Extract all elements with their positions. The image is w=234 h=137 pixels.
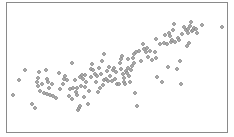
data-point <box>70 97 74 101</box>
data-point <box>40 82 44 86</box>
data-point <box>150 58 154 62</box>
data-point <box>50 82 54 86</box>
scatter-plot <box>0 0 234 137</box>
data-point <box>100 59 104 63</box>
data-point <box>67 94 71 98</box>
data-point <box>128 80 132 84</box>
data-point <box>98 86 102 90</box>
data-point <box>57 71 61 75</box>
data-point <box>122 76 126 80</box>
data-point <box>131 56 135 60</box>
data-point <box>178 59 182 63</box>
data-point <box>163 33 167 37</box>
data-point <box>83 73 87 77</box>
data-point <box>189 20 193 24</box>
data-point <box>154 37 158 41</box>
data-point <box>102 52 106 56</box>
data-point <box>155 75 159 79</box>
data-point <box>101 83 105 87</box>
data-point <box>38 89 42 93</box>
data-point <box>160 80 164 84</box>
data-point <box>200 23 204 27</box>
data-point <box>58 87 62 91</box>
data-point <box>11 93 15 97</box>
data-point <box>96 90 100 94</box>
data-point <box>166 65 170 69</box>
data-point <box>179 82 183 86</box>
data-point <box>133 91 137 95</box>
data-point <box>37 70 41 74</box>
data-point <box>139 59 143 63</box>
data-point <box>23 68 27 72</box>
data-point <box>141 42 145 46</box>
data-point <box>180 32 184 36</box>
data-point <box>153 50 157 54</box>
data-point <box>84 80 88 84</box>
data-point <box>36 84 40 88</box>
data-point <box>90 62 94 66</box>
data-point <box>148 49 152 53</box>
data-point <box>82 95 86 99</box>
data-point <box>126 57 130 61</box>
data-point <box>175 67 179 71</box>
data-point <box>83 85 87 89</box>
data-point <box>61 82 65 86</box>
data-point <box>73 78 77 82</box>
data-point <box>107 65 111 69</box>
data-point <box>79 84 83 88</box>
data-point <box>70 61 74 65</box>
data-point <box>121 72 125 76</box>
data-point <box>17 78 21 82</box>
data-point <box>30 102 34 106</box>
data-point <box>86 102 90 106</box>
data-point <box>87 89 91 93</box>
data-point <box>118 61 122 65</box>
data-point <box>154 56 158 60</box>
data-point <box>108 74 112 78</box>
data-point <box>158 42 162 46</box>
data-point <box>99 72 103 76</box>
data-point <box>171 28 175 32</box>
data-point <box>75 86 79 90</box>
data-point <box>195 31 199 35</box>
data-point <box>36 76 40 80</box>
data-point <box>33 106 37 110</box>
data-point <box>220 25 224 29</box>
data-points <box>11 20 224 112</box>
data-point <box>44 68 48 72</box>
data-point <box>35 80 39 84</box>
data-point <box>135 104 139 108</box>
data-point <box>89 75 93 79</box>
data-point <box>47 86 51 90</box>
data-point <box>97 66 101 70</box>
data-point <box>146 55 150 59</box>
data-point <box>172 22 176 26</box>
data-point <box>94 80 98 84</box>
data-point <box>119 67 123 71</box>
data-point <box>105 69 109 73</box>
